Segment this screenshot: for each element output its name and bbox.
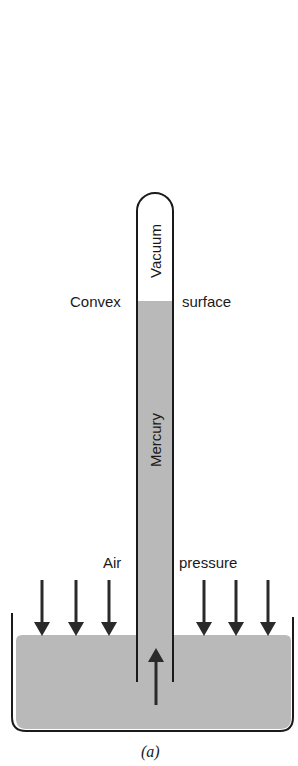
surface-label: surface bbox=[182, 294, 231, 309]
figure-caption: (a) bbox=[141, 744, 160, 760]
mercury-label: Mercury bbox=[148, 413, 163, 467]
barometer-illustration bbox=[0, 0, 298, 766]
air-label: Air bbox=[103, 555, 121, 570]
pressure-label: pressure bbox=[179, 555, 237, 570]
air-pressure-arrows-left bbox=[34, 580, 117, 636]
vacuum-label: Vacuum bbox=[148, 224, 163, 278]
barometer-diagram: Vacuum Mercury Convex surface Air pressu… bbox=[0, 0, 298, 766]
tube-mercury-column bbox=[138, 301, 173, 682]
air-pressure-arrows-right bbox=[196, 580, 276, 636]
convex-label: Convex bbox=[70, 294, 121, 309]
